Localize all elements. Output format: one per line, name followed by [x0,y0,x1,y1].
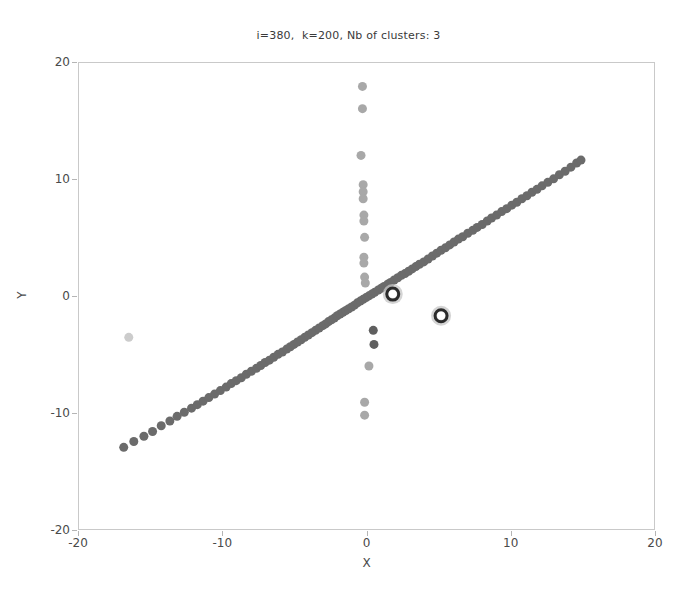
x-tick-mark [367,531,368,536]
y-axis-label: Y [15,265,29,325]
x-axis-tick-labels: -20-1001020 [78,536,655,556]
x-tick-label: -10 [212,536,232,550]
scatter-plot-figure: i=380, k=200, Nb of clusters: 3 -20-1001… [0,0,697,595]
y-tick-label: 0 [62,289,70,303]
y-tick-label: 20 [55,55,70,69]
y-tick-mark [72,179,77,180]
x-tick-label: 10 [503,536,518,550]
plot-area [78,62,655,530]
x-tick-mark [655,531,656,536]
y-tick-mark [72,530,77,531]
chart-title: i=380, k=200, Nb of clusters: 3 [0,29,697,42]
y-tick-mark [72,413,77,414]
x-tick-label: -20 [68,536,88,550]
x-tick-mark [78,531,79,536]
x-tick-mark [222,531,223,536]
x-tick-mark [511,531,512,536]
y-tick-label: 10 [55,172,70,186]
y-tick-label: -10 [50,406,70,420]
x-tick-label: 20 [647,536,662,550]
y-axis-tick-labels: -20-1001020 [30,62,70,530]
y-tick-mark [72,296,77,297]
scatter-canvas [79,63,655,530]
y-tick-mark [72,62,77,63]
y-tick-label: -20 [50,523,70,537]
x-axis-label: X [78,556,655,570]
x-tick-label: 0 [363,536,371,550]
